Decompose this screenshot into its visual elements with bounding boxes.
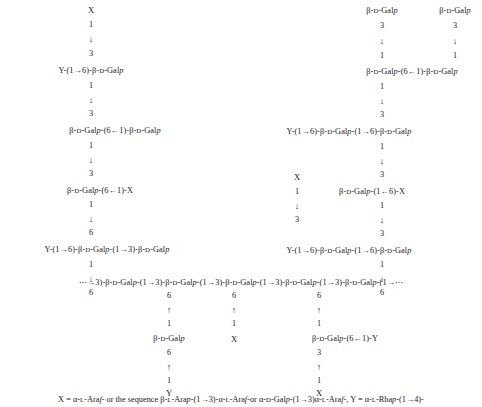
lower-branch-3-position-3: 3: [317, 349, 321, 357]
left-chain-position-1-b: 1: [89, 142, 93, 150]
lower-branch-3-position-1-b: 1: [317, 377, 321, 385]
lower-branch-1-arrow-up: ↑: [167, 306, 172, 315]
right-chain-position-1-d: 1: [380, 261, 384, 269]
left-chain-position-6-a: 6: [89, 229, 93, 237]
upper-right-branch-arrow-down-a: ↓: [380, 37, 385, 46]
right-chain-residue-3: β-d-Galp-(1←6)-X: [339, 188, 405, 196]
left-chain-arrow-down-a: ↓: [89, 96, 94, 105]
upper-right-branch-terminal-galp-a: β-d-Galp: [366, 7, 398, 15]
left-chain-position-1-a: 1: [89, 82, 93, 90]
lower-branch-3-residue: β-d-Galp-(6←1)-Y: [312, 335, 378, 343]
upper-left-branch-arrow-down: ↓: [89, 35, 94, 44]
right-chain-position-1-a: 1: [380, 83, 384, 91]
middle-branch-position-3: 3: [295, 216, 299, 224]
right-chain-position-3-c: 3: [380, 230, 384, 238]
left-chain-position-3-b: 3: [89, 170, 93, 178]
upper-far-right-branch-position-3: 3: [453, 22, 457, 30]
right-chain-residue-2: Y-(1→6)-β-d-Galp-(1→6)-β-d-Galp: [286, 128, 411, 136]
upper-right-branch-position-1-a: 1: [380, 52, 384, 60]
lower-branch-1-position-6-b: 6: [167, 349, 171, 357]
definitions-legend: X = α-l-Araf- or the sequence β-l-Arap-(…: [58, 396, 424, 404]
lower-branch-1-arrow-up-b: ↑: [167, 363, 172, 372]
lower-branch-3-position-6: 6: [317, 292, 321, 300]
right-chain-position-1-b: 1: [380, 143, 384, 151]
left-chain-position-1-d: 1: [89, 261, 93, 269]
lower-branch-3-arrow-up-b: ↑: [317, 363, 322, 372]
lower-branch-3-position-1: 1: [317, 320, 321, 328]
polysaccharide-structure-diagram: X1↓3Y-(1→6)-β-d-Galp1↓3β-d-Galp-(6←1)-β-…: [0, 0, 482, 407]
lower-branch-2-terminal-x: X: [231, 335, 237, 344]
left-chain-residue-1: Y-(1→6)-β-d-Galp: [58, 67, 123, 75]
left-chain-residue-4: Y-(1→6)-β-d-Galp-(1→3)-β-d-Galp: [44, 246, 169, 254]
backbone-chain: ⋯→3)-β-d-Galp-(1→3)-β-d-Galp-(1→3)-β-d-G…: [79, 279, 403, 287]
lower-branch-3-arrow-up: ↑: [317, 306, 322, 315]
left-chain-position-6-b: 6: [89, 289, 93, 297]
lower-branch-2-position-6: 6: [232, 292, 236, 300]
left-chain-residue-2: β-d-Galp-(6←1)-β-d-Galp: [69, 127, 161, 135]
middle-branch-position-1: 1: [295, 188, 299, 196]
right-chain-position-3-a: 3: [380, 111, 384, 119]
right-chain-position-6: 6: [380, 289, 384, 297]
middle-branch-arrow-down: ↓: [295, 202, 300, 211]
left-chain-arrow-down-c: ↓: [89, 215, 94, 224]
lower-branch-1-position-1-b: 1: [167, 377, 171, 385]
left-chain-arrow-down-b: ↓: [89, 156, 94, 165]
upper-far-right-branch-terminal-galp: β-d-Galp: [439, 7, 471, 15]
left-chain-residue-3: β-d-Galp-(6←1)-X: [67, 187, 133, 195]
lower-branch-2-position-1: 1: [232, 320, 236, 328]
right-chain-arrow-down-b: ↓: [380, 157, 385, 166]
upper-far-right-branch-arrow-down: ↓: [453, 37, 458, 46]
right-chain-arrow-down-c: ↓: [380, 216, 385, 225]
right-chain-position-1-c: 1: [380, 202, 384, 210]
middle-branch-terminal-x: X: [294, 173, 300, 182]
upper-left-branch-terminal-x: X: [88, 6, 94, 15]
right-chain-residue-4: Y-(1→6)-β-d-Galp-(1→6)-β-d-Galp: [286, 247, 411, 255]
upper-left-branch-position-1: 1: [89, 21, 93, 29]
right-chain-arrow-down-a: ↓: [380, 97, 385, 106]
left-chain-position-1-c: 1: [89, 201, 93, 209]
upper-far-right-branch-position-1: 1: [453, 52, 457, 60]
lower-branch-1-residue: β-d-Galp: [153, 335, 185, 343]
upper-right-branch-position-3-a: 3: [380, 22, 384, 30]
right-chain-position-3-b: 3: [380, 171, 384, 179]
lower-branch-1-position-1: 1: [167, 320, 171, 328]
lower-branch-1-position-6: 6: [167, 292, 171, 300]
lower-branch-2-arrow-up: ↑: [232, 306, 237, 315]
upper-left-branch-position-3: 3: [89, 50, 93, 58]
right-chain-residue-1: β-d-Galp-(6←1)-β-d-Galp: [366, 68, 458, 76]
left-chain-position-3-a: 3: [89, 110, 93, 118]
